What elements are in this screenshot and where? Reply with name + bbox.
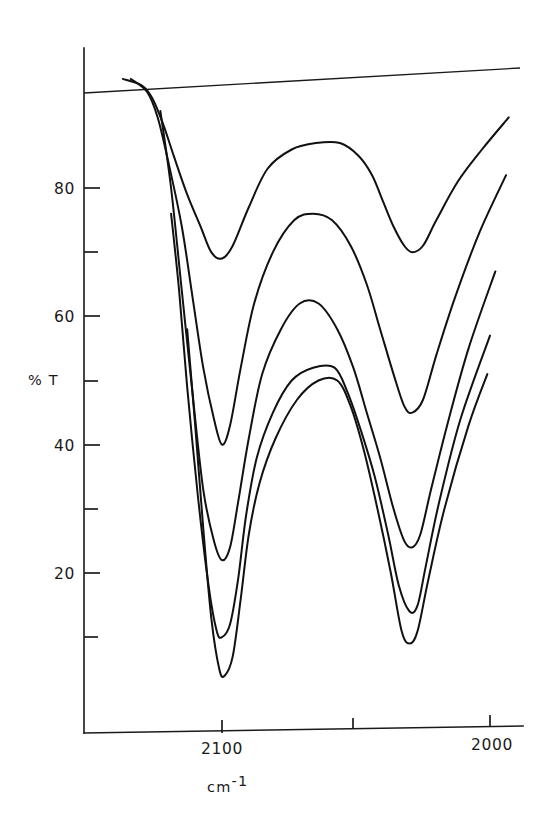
x-tick-label-2100: 2100 (201, 740, 243, 758)
y-axis-title: % T (28, 372, 59, 388)
y-tick-label-20: 20 (54, 565, 75, 583)
trace-line (160, 111, 495, 560)
x-tick-label-2000: 2000 (471, 736, 513, 754)
trace-line (171, 214, 490, 638)
baseline-100-percent (84, 68, 520, 93)
spectrum-plot: 80 60 40 20 % T 2100 2000 cm-1 (0, 0, 550, 817)
y-tick-label-40: 40 (54, 437, 75, 455)
spectral-traces (123, 79, 509, 677)
trace-line (123, 79, 509, 259)
y-tick-label-80: 80 (54, 180, 75, 198)
x-axis-title-exponent: -1 (232, 773, 249, 789)
x-axis (84, 726, 523, 733)
y-tick-label-60: 60 (54, 308, 75, 326)
x-axis-title-base: cm (207, 779, 232, 795)
x-axis-title: cm-1 (207, 773, 248, 795)
ir-spectrum-figure: 80 60 40 20 % T 2100 2000 cm-1 (0, 0, 550, 817)
trace-line (187, 329, 487, 677)
